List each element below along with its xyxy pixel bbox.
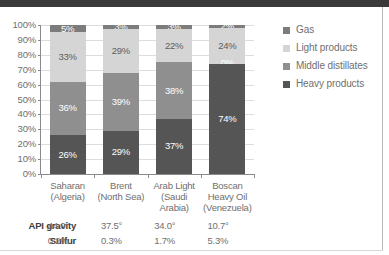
legend-label: Light products	[296, 43, 357, 53]
y-axis-tick-40%: 40%	[2, 109, 36, 119]
bar-segment-heavy-products[interactable]: 74%	[209, 64, 245, 174]
bar-brent[interactable]: 3%29%39%29%	[103, 25, 139, 174]
bar-segment-value: 39%	[112, 97, 130, 107]
y-axis-tick-20%: 20%	[2, 139, 36, 149]
legend-swatch-icon	[283, 63, 290, 70]
category-label-line: (Venezuela)	[191, 202, 263, 213]
bar-segment-heavy-products[interactable]: 37%	[156, 119, 192, 174]
x-tick-mark	[94, 174, 95, 178]
scan-band-top	[0, 0, 389, 7]
bar-segment-light-products[interactable]: 29%	[103, 29, 139, 72]
bar-segment-heavy-products[interactable]: 26%	[50, 135, 86, 174]
bar-segment-value: 29%	[112, 46, 130, 56]
table-row: Sulfur0.2%0.3%1.7%5.3%	[0, 233, 270, 248]
y-axis-tick-60%: 60%	[2, 80, 36, 90]
table-cell: 0.3%	[101, 233, 153, 248]
x-tick-mark	[41, 174, 42, 178]
bar-boscan[interactable]: 2%24%0%74%	[209, 25, 245, 174]
bar-segment-light-products[interactable]: 33%	[50, 32, 86, 81]
legend-item-gas[interactable]: Gas	[283, 21, 368, 39]
legend-label: Middle distillates	[296, 61, 368, 71]
bar-segment-value: 38%	[165, 86, 183, 96]
table-cell: 44.0°	[48, 218, 100, 233]
legend-item-heavy-products[interactable]: Heavy products	[283, 75, 368, 93]
x-tick-mark	[148, 174, 149, 178]
y-axis-tick-100%: 100%	[2, 20, 36, 30]
table-cell: 5.3%	[207, 233, 259, 248]
bar-segment-heavy-products[interactable]: 29%	[103, 131, 139, 174]
bar-segment-value: 29%	[112, 147, 130, 157]
x-tick-mark	[201, 174, 202, 178]
legend-label: Heavy products	[296, 79, 364, 89]
table-row: API gravity44.0°37.5°34.0°10.7°	[0, 218, 270, 233]
bar-segment-value: 74%	[218, 114, 236, 124]
y-axis-tick-50%: 50%	[2, 95, 36, 105]
category-label-3: BoscanHeavy Oil(Venezuela)	[191, 180, 263, 213]
y-axis-tick-0%: 0%	[2, 169, 36, 179]
y-axis-tick-70%: 70%	[2, 65, 36, 75]
bar-segment-light-products[interactable]: 22%	[156, 29, 192, 62]
bar-segment-middle-distillates[interactable]: 39%	[103, 73, 139, 131]
y-axis-tick-30%: 30%	[2, 124, 36, 134]
bar-segment-value: 36%	[58, 103, 76, 113]
legend-label: Gas	[296, 25, 314, 35]
chart-legend: GasLight productsMiddle distillatesHeavy…	[283, 21, 368, 93]
table-cell: 34.0°	[154, 218, 206, 233]
x-axis-category-labels: Saharan(Algeria)Brent(North Sea)Arab Lig…	[41, 180, 254, 214]
category-label-line: Boscan	[191, 180, 263, 191]
x-tick-mark	[254, 174, 255, 178]
table-cell: 0.2%	[48, 233, 100, 248]
bar-segment-middle-distillates[interactable]: 38%	[156, 62, 192, 119]
bar-segment-value: 26%	[58, 150, 76, 160]
bar-segment-value: 37%	[165, 141, 183, 151]
y-axis-tick-10%: 10%	[2, 154, 36, 164]
chart-page: 100%90%80%70%60%50%40%30%20%10%0% 5%33%3…	[0, 0, 389, 255]
bar-arab[interactable]: 3%22%38%37%	[156, 25, 192, 174]
legend-item-light-products[interactable]: Light products	[283, 39, 368, 57]
y-axis-tick-labels: 100%90%80%70%60%50%40%30%20%10%0%	[2, 21, 36, 173]
category-label-line: Heavy Oil	[191, 191, 263, 202]
table-cell: 10.7°	[207, 218, 259, 233]
bar-segment-value: 24%	[218, 41, 236, 51]
legend-swatch-icon	[283, 45, 290, 52]
stacked-bar-series: 5%33%36%26%3%29%39%29%3%22%38%37%2%24%0%…	[41, 25, 254, 174]
y-axis-tick-80%: 80%	[2, 50, 36, 60]
bar-segment-value: 33%	[58, 52, 76, 62]
bar-saharan[interactable]: 5%33%36%26%	[50, 25, 86, 174]
legend-swatch-icon	[283, 27, 290, 34]
bar-segment-middle-distillates[interactable]: 36%	[50, 82, 86, 136]
legend-swatch-icon	[283, 81, 290, 88]
bar-segment-value: 22%	[165, 41, 183, 51]
table-cell: 1.7%	[154, 233, 206, 248]
bar-segment-gas[interactable]: 5%	[50, 25, 86, 32]
crude-properties-table: API gravity44.0°37.5°34.0°10.7°Sulfur0.2…	[0, 218, 270, 248]
table-cell: 37.5°	[101, 218, 153, 233]
legend-item-middle-distillates[interactable]: Middle distillates	[283, 57, 368, 75]
y-axis-tick-90%: 90%	[2, 35, 36, 45]
chart-figure: 100%90%80%70%60%50%40%30%20%10%0% 5%33%3…	[0, 7, 389, 255]
